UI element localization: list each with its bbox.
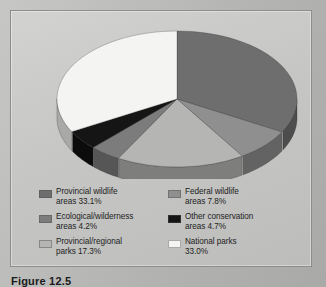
- legend-item-federal-wildlife-areas[interactable]: Federal wildlife areas 7.8%: [168, 187, 289, 211]
- legend-label-national-parks: National parks 33.0%: [185, 237, 237, 258]
- legend: Provincial wildlife areas 33.1% Federal …: [39, 187, 289, 261]
- legend-label-ecological-wilderness-areas: Ecological/wilderness areas 4.2%: [56, 212, 133, 233]
- legend-label-other-conservation-areas: Other conservation areas 4.7%: [185, 212, 253, 233]
- figure-caption: Figure 12.5: [11, 275, 71, 287]
- scanned-page-background: Provincial wildlife areas 33.1%Federal w…: [0, 0, 326, 287]
- legend-item-provincial-regional-parks[interactable]: Provincial/regional parks 17.3%: [39, 237, 160, 261]
- legend-item-ecological-wilderness-areas[interactable]: Ecological/wilderness areas 4.2%: [39, 212, 160, 236]
- legend-swatch-other-conservation-areas: [168, 215, 181, 223]
- legend-label-provincial-regional-parks: Provincial/regional parks 17.3%: [56, 237, 122, 258]
- legend-label-provincial-wildlife-areas: Provincial wildlife areas 33.1%: [56, 187, 117, 208]
- legend-item-national-parks[interactable]: National parks 33.0%: [168, 237, 289, 261]
- legend-swatch-federal-wildlife-areas: [168, 190, 181, 198]
- legend-label-federal-wildlife-areas: Federal wildlife areas 7.8%: [185, 187, 239, 208]
- legend-swatch-national-parks: [168, 240, 181, 248]
- pie-top-slices: Provincial wildlife areas 33.1%Federal w…: [57, 31, 297, 167]
- legend-swatch-provincial-wildlife-areas: [39, 190, 52, 198]
- legend-item-other-conservation-areas[interactable]: Other conservation areas 4.7%: [168, 212, 289, 236]
- legend-swatch-provincial-regional-parks: [39, 240, 52, 248]
- pie-chart-svg: Provincial wildlife areas 33.1%Federal w…: [11, 11, 312, 179]
- legend-item-provincial-wildlife-areas[interactable]: Provincial wildlife areas 33.1%: [39, 187, 160, 211]
- pie-chart: Provincial wildlife areas 33.1%Federal w…: [11, 11, 312, 179]
- legend-swatch-ecological-wilderness-areas: [39, 215, 52, 223]
- figure-panel: Provincial wildlife areas 33.1%Federal w…: [10, 10, 312, 267]
